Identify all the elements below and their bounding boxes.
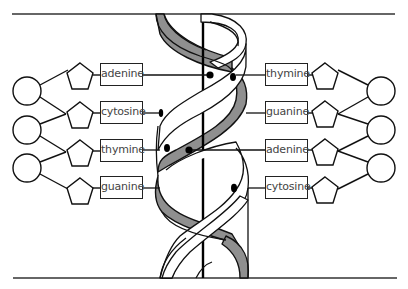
base-label-left-2: cytosine: [100, 101, 143, 124]
phosphate-circle: [367, 154, 395, 182]
base-label-left-4: guanine: [100, 176, 143, 199]
base-label-left-1: adenine: [100, 63, 143, 86]
phosphate-circle: [367, 116, 395, 144]
phosphate-circle: [13, 154, 41, 182]
sugar-pentagon: [312, 139, 338, 165]
sugar-pentagon: [312, 63, 338, 89]
phosphate-circle: [13, 116, 41, 144]
base-label-right-4: cytosine: [265, 176, 308, 199]
base-label-right-1: thymine: [265, 63, 308, 86]
sugar-pentagon: [67, 178, 93, 204]
sugar-pentagon: [67, 102, 93, 128]
sugar-pentagon: [312, 101, 338, 127]
sugar-pentagon: [312, 177, 338, 203]
left-backbone: [13, 63, 100, 204]
sugar-pentagon: [67, 63, 93, 89]
dna-svg: [0, 0, 408, 289]
sugar-pentagon: [67, 140, 93, 166]
phosphate-circle: [367, 77, 395, 105]
base-label-right-3: adenine: [265, 139, 308, 162]
phosphate-circle: [13, 77, 41, 105]
right-backbone: [307, 63, 395, 203]
base-label-right-2: guanine: [265, 101, 308, 124]
base-label-left-3: thymine: [100, 139, 143, 162]
dna-diagram: adenine cytosine thymine guanine thymine…: [0, 0, 408, 289]
